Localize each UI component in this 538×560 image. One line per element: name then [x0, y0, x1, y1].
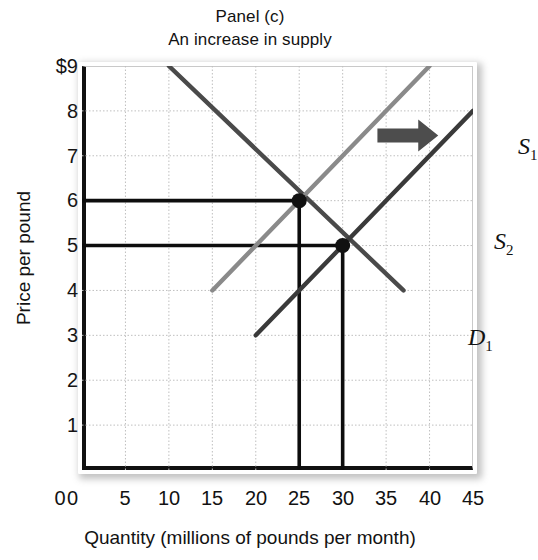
y-tick-1: 1	[18, 415, 78, 435]
x-tick-25: 25	[277, 488, 321, 508]
curve-label-s2: S2	[494, 229, 514, 262]
x-tick-45: 45	[451, 488, 495, 508]
y-tick-8: 8	[18, 101, 78, 121]
vertical-gridlines	[125, 66, 429, 470]
x-tick-20: 20	[234, 488, 278, 508]
x-tick-5: 5	[103, 488, 147, 508]
y-axis-label: Price per pound	[13, 158, 35, 358]
x-tick-35: 35	[364, 488, 408, 508]
x-tick-15: 15	[190, 488, 234, 508]
y-tick-9: $9	[18, 56, 78, 76]
y-tick-2: 2	[18, 370, 78, 390]
plot-container: S1 S2 D1	[82, 66, 473, 470]
horizontal-gridlines	[82, 111, 473, 425]
curve-label-d1: D1	[468, 325, 493, 358]
x-tick-40: 40	[408, 488, 452, 508]
x-tick-30: 30	[321, 488, 365, 508]
x-axis-label: Quantity (millions of pounds per month)	[0, 527, 500, 549]
x-tick-0: 0	[38, 488, 82, 508]
curve-label-s1: S1	[518, 134, 538, 167]
chart-svg	[82, 66, 473, 470]
x-tick-10: 10	[147, 488, 191, 508]
